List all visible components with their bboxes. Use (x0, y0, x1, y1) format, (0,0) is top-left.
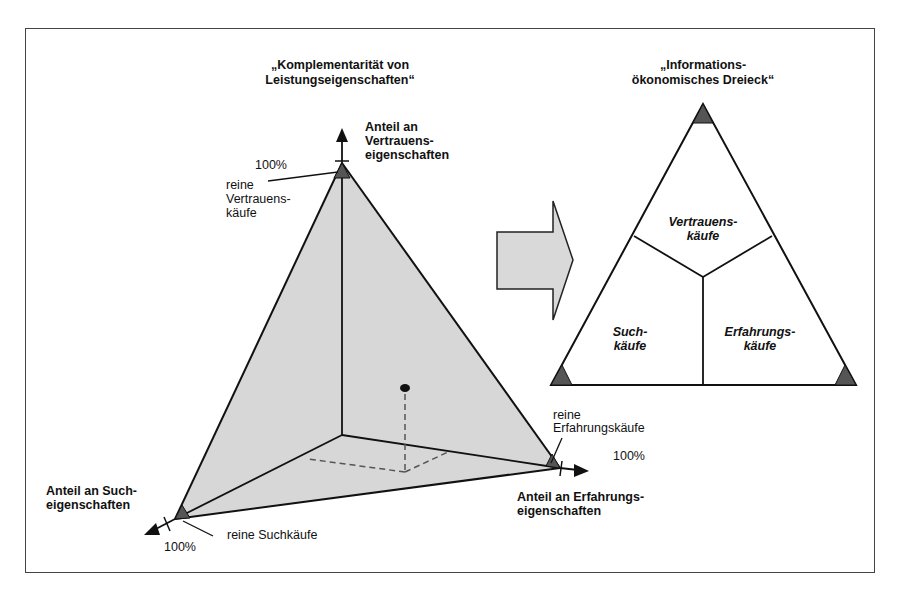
right-diagram-title: „Informations- ökonomisches Dreieck“ (608, 58, 798, 88)
left-title-line1: „Komplementarität von (240, 58, 440, 73)
axis-vertical-line3: eigenschaften (365, 148, 449, 162)
region-left-line2: käufe (600, 339, 660, 353)
region-top-line2: käufe (653, 229, 753, 243)
leader-left (183, 521, 213, 536)
axis-right-line1: Anteil an Erfahrungs- (517, 490, 644, 504)
region-left-label: Such- käufe (600, 325, 660, 353)
corner-right-label: reine Erfahrungskäufe (553, 409, 645, 435)
axis-left-label: Anteil an Such- eigenschaften (46, 484, 137, 512)
axis-left-percent: 100% (164, 540, 196, 554)
axis-right-percent: 100% (613, 449, 645, 463)
axis-right-line2: eigenschaften (517, 504, 644, 518)
left-diagram-title: „Komplementarität von Leistungseigenscha… (240, 58, 440, 88)
corner-top-line3: käufe (226, 206, 291, 220)
axis-left-line1: Anteil an Such- (46, 484, 137, 498)
corner-top-line1: reine (226, 178, 291, 192)
arrowhead-left-icon (144, 523, 160, 535)
axis-left-line2: eigenschaften (46, 498, 137, 512)
right-title-line2: ökonomisches Dreieck“ (608, 73, 798, 88)
info-triangle (551, 104, 856, 385)
info-corner-top (693, 104, 713, 123)
region-top-label: Vertrauens- käufe (653, 215, 753, 243)
region-right-label: Erfahrungs- käufe (710, 325, 810, 353)
region-right-line2: käufe (710, 339, 810, 353)
right-title-line1: „Informations- (608, 58, 798, 73)
region-right-line1: Erfahrungs- (710, 325, 810, 339)
tick-right-100 (560, 461, 562, 476)
region-top-line1: Vertrauens- (653, 215, 753, 229)
arrowhead-right-icon (574, 464, 589, 477)
axis-vertical-line2: Vertrauens- (365, 134, 449, 148)
corner-left-label: reine Suchkäufe (227, 528, 317, 542)
axis-vertical-line1: Anteil an (365, 120, 449, 134)
axis-vertical-label: Anteil an Vertrauens- eigenschaften (365, 120, 449, 162)
data-point (400, 384, 410, 392)
corner-right-line2: Erfahrungskäufe (553, 422, 645, 435)
region-left-line1: Such- (600, 325, 660, 339)
left-title-line2: Leistungseigenschaften“ (240, 73, 440, 88)
arrowhead-up-icon (336, 128, 348, 142)
block-arrow-right-icon (497, 201, 573, 320)
axis-right-label: Anteil an Erfahrungs- eigenschaften (517, 490, 644, 518)
corner-top-label: reine Vertrauens- käufe (226, 178, 291, 220)
leader-right (551, 438, 562, 463)
axis-vertical-percent: 100% (255, 158, 287, 172)
corner-top-line2: Vertrauens- (226, 192, 291, 206)
